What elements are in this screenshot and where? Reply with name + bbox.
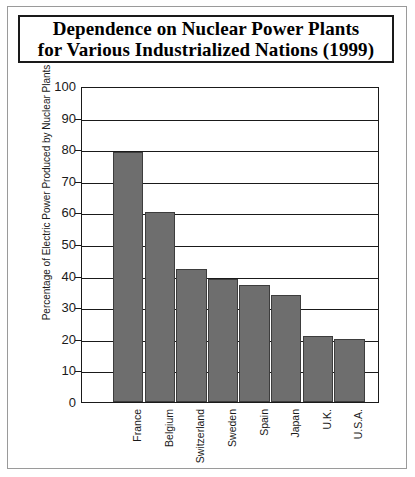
bar-sweden — [208, 279, 238, 402]
y-tick-label-20: 20 — [36, 332, 76, 347]
bar-japan — [271, 295, 301, 402]
y-tick-label-50: 50 — [36, 237, 76, 252]
y-tick-label-40: 40 — [36, 269, 76, 284]
bar-u-k — [303, 336, 333, 402]
bar-france — [113, 152, 143, 402]
bar-spain — [239, 285, 269, 402]
x-tick-label-switzerland: Switzerland — [194, 409, 206, 463]
y-tick-label-100: 100 — [36, 79, 76, 94]
x-tick-label-belgium: Belgium — [163, 409, 175, 447]
bar-u-s-a — [334, 339, 364, 402]
y-tick-label-10: 10 — [36, 363, 76, 378]
bar-switzerland — [176, 269, 206, 402]
y-tick-label-70: 70 — [36, 174, 76, 189]
x-tick-label-france: France — [131, 409, 143, 442]
x-tick-label-sweden: Sweden — [226, 409, 238, 447]
x-tick-label-japan: Japan — [289, 409, 301, 438]
plot-area — [81, 87, 379, 403]
x-tick-label-u-s-a: U.S.A. — [352, 409, 364, 439]
y-tick-label-0: 0 — [36, 395, 76, 410]
bar-series — [82, 88, 378, 402]
y-tick-label-80: 80 — [36, 142, 76, 157]
bar-belgium — [145, 212, 175, 402]
y-tick-label-90: 90 — [36, 111, 76, 126]
chart-figure: Dependence on Nuclear Power Plants for V… — [7, 6, 407, 469]
y-tick-label-60: 60 — [36, 205, 76, 220]
plot-wrapper: Percentage of Electric Power Produced by… — [8, 7, 408, 470]
y-tick-label-30: 30 — [36, 300, 76, 315]
x-tick-label-u-k: U.K. — [321, 409, 333, 429]
x-tick-label-spain: Spain — [258, 409, 270, 436]
